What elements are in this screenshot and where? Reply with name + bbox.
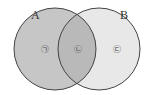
region-intersection-label: ㉡ (74, 45, 82, 54)
region-b-only-label: ㉢ (113, 45, 121, 54)
set-b-label: B (120, 8, 128, 22)
venn-diagram: A B ㉠ ㉡ ㉢ (0, 0, 154, 95)
set-a-label: A (31, 8, 40, 22)
region-a-only-label: ㉠ (41, 45, 49, 54)
